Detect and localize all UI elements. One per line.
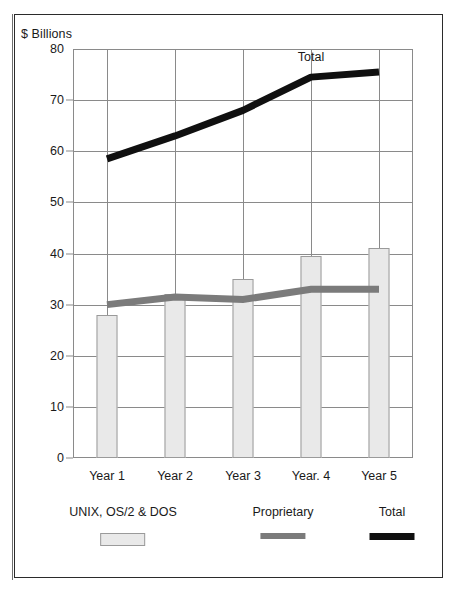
line-series-overlay <box>73 49 413 458</box>
y-axis-tick-mark <box>66 100 73 101</box>
legend-swatch-grey-bar <box>260 533 305 539</box>
y-axis-tick-mark <box>66 406 73 407</box>
y-axis-unit-caption: $ Billions <box>21 27 72 41</box>
legend-swatch-black-bar <box>370 533 415 540</box>
y-axis-tick-label: 50 <box>50 195 64 209</box>
y-axis-tick-mark <box>66 304 73 305</box>
legend-label: Proprietary <box>252 505 313 519</box>
y-axis-tick-mark <box>66 151 73 152</box>
x-axis-tick-label: Year 2 <box>157 469 193 483</box>
legend-label: Total <box>370 505 415 519</box>
x-axis-tick-label: Year 3 <box>225 469 261 483</box>
x-axis-tick-label: Year. 4 <box>292 469 330 483</box>
y-axis-tick-label: 60 <box>50 144 64 158</box>
y-axis-tick-label: 40 <box>50 247 64 261</box>
y-axis-tick-mark <box>66 458 73 459</box>
y-axis-tick-mark <box>66 253 73 254</box>
chart-figure: $ Billions 01020304050607080 Total Year … <box>14 14 443 578</box>
y-axis-tick-label: 30 <box>50 298 64 312</box>
chart-legend: UNIX, OS/2 & DOSProprietaryTotal <box>15 505 444 575</box>
y-axis-tick-label: 10 <box>50 400 64 414</box>
y-axis-tick-label: 70 <box>50 93 64 107</box>
y-axis-tick-mark <box>66 355 73 356</box>
plot-area: 01020304050607080 Total Year 1Year 2Year… <box>73 49 413 458</box>
x-axis-tick-label: Year 1 <box>89 469 125 483</box>
proprietary-line <box>107 289 379 304</box>
legend-entry: UNIX, OS/2 & DOS <box>69 505 177 546</box>
legend-swatch-light-box <box>100 533 145 546</box>
y-axis-tick-label: 80 <box>50 42 64 56</box>
legend-label: UNIX, OS/2 & DOS <box>69 505 177 519</box>
y-axis-tick-label: 20 <box>50 349 64 363</box>
legend-entry: Total <box>370 505 415 540</box>
y-axis-tick-label: 0 <box>57 451 64 465</box>
x-axis-tick-label: Year 5 <box>361 469 397 483</box>
legend-entry: Proprietary <box>252 505 313 539</box>
total-line-annotation: Total <box>298 50 324 64</box>
total-line <box>107 72 379 159</box>
y-axis-tick-mark <box>66 202 73 203</box>
